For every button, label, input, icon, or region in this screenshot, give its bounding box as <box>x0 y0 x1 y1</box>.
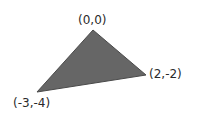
vertex-label-right: (2,-2) <box>149 67 182 81</box>
triangle-shape <box>37 30 146 92</box>
vertex-label-bottom-left: (-3,-4) <box>13 96 50 110</box>
vertex-label-top: (0,0) <box>78 13 106 27</box>
